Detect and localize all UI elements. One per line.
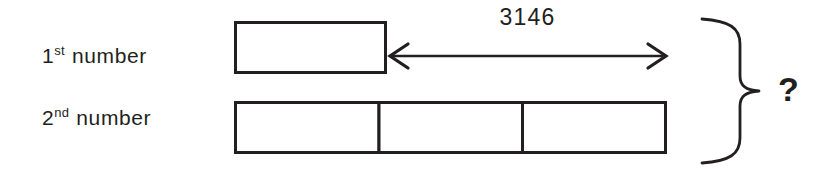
difference-value-label: 3146 (388, 6, 667, 29)
total-brace (702, 19, 759, 163)
row-label-second-number: 2ndnumber (42, 106, 151, 128)
difference-arrow (390, 44, 666, 68)
bar-row-1-segment-1 (236, 23, 386, 73)
bar-row-2-segment-2 (379, 103, 523, 153)
unknown-total-question-mark: ? (778, 72, 799, 106)
row-2-ordinal-number: 2 (42, 106, 54, 129)
row-label-first-number: 1stnumber (42, 44, 147, 66)
bar-row-2-segment-1 (236, 103, 380, 153)
row-2-label-word: number (76, 106, 151, 129)
diagram-canvas: 1stnumber 2ndnumber 3146 ? (0, 0, 831, 169)
row-2-ordinal-suffix: nd (54, 105, 69, 120)
row-1-label-word: number (72, 44, 147, 67)
row-1-ordinal-suffix: st (54, 43, 65, 58)
row-1-ordinal-number: 1 (42, 44, 54, 67)
bar-row-2-segment-3 (523, 103, 666, 153)
